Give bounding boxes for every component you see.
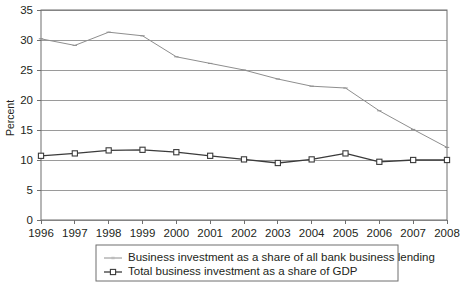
x-axis-tick-label: 2008 <box>434 227 460 239</box>
x-axis-tick-label: 2001 <box>197 227 223 239</box>
chart-container: 05101520253035 1996199719981999200020012… <box>0 0 467 290</box>
y-axis-tick-label: 10 <box>20 154 33 166</box>
x-axis-tick-label: 1997 <box>62 227 88 239</box>
data-point-marker <box>377 159 382 164</box>
x-axis-tick-label: 2004 <box>299 227 325 239</box>
x-axis-tick-label: 1996 <box>28 227 54 239</box>
x-axis-tick-label: 2005 <box>333 227 359 239</box>
y-axis-tick-label: 30 <box>20 34 33 46</box>
legend-item-label: Business investment as a share of all ba… <box>128 251 435 263</box>
legend-marker-square-icon <box>110 269 115 274</box>
data-point-marker <box>343 151 348 156</box>
legend-item[interactable]: Business investment as a share of all ba… <box>104 251 435 263</box>
data-point-marker <box>241 157 246 162</box>
data-point-marker <box>309 157 314 162</box>
x-axis-tick-label: 2002 <box>231 227 257 239</box>
y-axis-title: Percent <box>4 100 16 136</box>
y-axis-tick-label: 5 <box>27 184 33 196</box>
data-point-marker <box>72 151 77 156</box>
x-axis-tick-label: 2000 <box>164 227 190 239</box>
legend-item[interactable]: Total business investment as a share of … <box>104 265 358 277</box>
data-point-marker <box>38 153 43 158</box>
y-axis-tick-label: 20 <box>20 94 33 106</box>
x-axis-tick-label: 2003 <box>265 227 291 239</box>
data-point-marker <box>444 157 449 162</box>
y-axis-tick-label: 0 <box>27 214 33 226</box>
y-axis-tick-label: 35 <box>20 4 33 16</box>
legend-item-label: Total business investment as a share of … <box>128 265 358 277</box>
x-axis-tick-label: 2006 <box>367 227 393 239</box>
x-axis-tick-label: 2007 <box>400 227 426 239</box>
x-axis-tick-label: 1999 <box>130 227 156 239</box>
data-point-marker <box>275 160 280 165</box>
data-point-marker <box>174 150 179 155</box>
data-point-marker <box>106 148 111 153</box>
y-axis-tick-label: 25 <box>20 64 33 76</box>
data-point-marker <box>140 147 145 152</box>
x-axis-tick-label: 1998 <box>96 227 122 239</box>
y-axis-tick-label: 15 <box>20 124 33 136</box>
chart-legend: Business investment as a share of all ba… <box>96 245 435 281</box>
data-point-marker <box>208 153 213 158</box>
line-chart: 05101520253035 1996199719981999200020012… <box>0 0 467 290</box>
data-point-marker <box>411 157 416 162</box>
